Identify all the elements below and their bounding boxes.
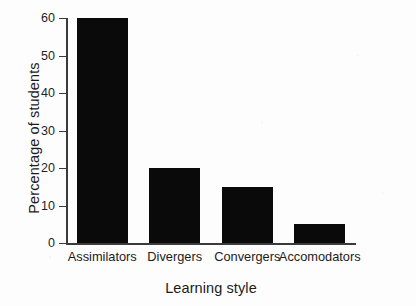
y-axis-tick xyxy=(59,131,67,132)
x-axis-tick-label: Convergers xyxy=(214,249,280,264)
x-axis-tick-label: Divergers xyxy=(147,249,202,264)
x-axis-title: Learning style xyxy=(66,280,356,296)
bar xyxy=(222,187,273,243)
x-axis-tick-label: Accomodators xyxy=(279,249,361,264)
bar xyxy=(77,18,128,243)
bar xyxy=(149,168,200,243)
y-axis-tick xyxy=(59,93,67,94)
y-axis-tick-label: 10 xyxy=(41,199,55,213)
y-axis-tick xyxy=(59,168,67,169)
y-axis-tick-label: 30 xyxy=(41,124,55,138)
y-axis-tick xyxy=(59,206,67,207)
y-axis-tick-label: 40 xyxy=(41,86,55,100)
y-axis-tick-label: 50 xyxy=(41,49,55,63)
y-axis-title: Percentage of students xyxy=(26,38,42,238)
x-axis-line xyxy=(66,243,356,245)
plot-area: 0102030405060 AssimilatorsDivergersConve… xyxy=(66,18,356,243)
bar xyxy=(294,224,345,243)
x-axis-tick-label: Assimilators xyxy=(68,249,137,264)
y-axis-tick xyxy=(59,243,67,244)
y-axis-tick xyxy=(59,56,67,57)
y-axis-tick xyxy=(59,18,67,19)
y-axis-tick-label: 60 xyxy=(41,11,55,25)
y-axis-tick-label: 0 xyxy=(48,236,55,250)
y-axis-tick-label: 20 xyxy=(41,161,55,175)
bar-chart-figure: Percentage of students 0102030405060 Ass… xyxy=(0,0,416,306)
